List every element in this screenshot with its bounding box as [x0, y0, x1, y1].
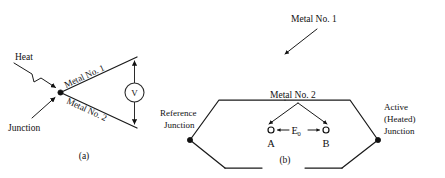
point-b-label: B [322, 138, 329, 149]
heat-arrow [14, 63, 56, 88]
junction-label: Junction [8, 123, 40, 133]
metal-1-upper-left-b [190, 100, 285, 140]
panel-b-caption: (b) [279, 155, 290, 166]
active-junction-node [375, 137, 380, 142]
terminal-b-node [323, 127, 329, 133]
active-junction-label-line1: Active [384, 102, 408, 112]
figure-canvas: Heat Junction Metal No. 1 Metal No. 2 V … [0, 0, 445, 178]
metal-2-lower-right-b [342, 140, 378, 168]
metal-2-label-a: Metal No. 2 [65, 96, 108, 123]
panel-b: Metal No. 1 Metal No. 2 E 0 A B Referenc… [160, 14, 415, 168]
active-junction-label-line3: Junction [384, 126, 415, 136]
metal-1-leader-b [285, 29, 317, 54]
junction-node-a [58, 90, 63, 95]
reference-junction-label-line1: Reference [160, 108, 196, 118]
reference-junction-node [187, 137, 192, 142]
panel-a: Heat Junction Metal No. 1 Metal No. 2 V … [8, 52, 144, 162]
reference-junction-label-line2: Junction [164, 120, 195, 130]
metal-1-label-b: Metal No. 1 [291, 14, 337, 24]
metal-2-label-b: Metal No. 2 [270, 90, 316, 100]
thermocouple-figure: Heat Junction Metal No. 1 Metal No. 2 V … [0, 0, 445, 178]
point-a-label: A [267, 138, 275, 149]
metal-2-leader-left-b [269, 103, 298, 124]
emf-subscript: 0 [298, 130, 301, 137]
panel-a-caption: (a) [79, 151, 90, 162]
metal-2-leader-right-b [298, 103, 327, 124]
active-junction-label-line2: (Heated) [384, 114, 415, 124]
metal-2-lower-left-b [190, 140, 225, 168]
voltmeter-label: V [131, 88, 138, 98]
junction-leader [32, 98, 55, 119]
terminal-a-node [268, 127, 274, 133]
metal-1-label-a: Metal No. 1 [63, 62, 106, 89]
heat-label: Heat [15, 52, 33, 62]
